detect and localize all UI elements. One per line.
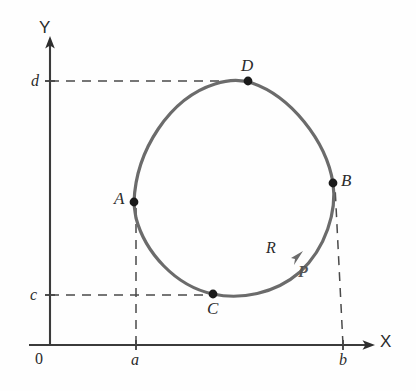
point-dot-A (130, 198, 139, 207)
diagram-graphics (0, 0, 416, 391)
point-dot-D (244, 77, 253, 86)
y-tick-label-d: d (31, 73, 39, 89)
point-label-A: A (114, 190, 124, 207)
point-dot-C (209, 290, 218, 299)
y-axis-label: Y (39, 19, 50, 36)
x-tick-label-b: b (339, 352, 347, 368)
diagram-canvas: Y X 0 a b c d A B C D R P (0, 0, 416, 391)
point-label-D: D (241, 57, 253, 74)
y-tick-label-c: c (30, 287, 37, 303)
origin-label: 0 (35, 351, 43, 367)
x-axis-label: X (380, 333, 391, 350)
region-label-R: R (266, 240, 276, 256)
point-label-C: C (207, 300, 218, 317)
vector-label-P: P (298, 264, 308, 280)
guide-line-b-to-B (335, 186, 343, 345)
x-tick-label-a: a (131, 352, 139, 368)
point-label-B: B (341, 172, 351, 189)
point-dot-B (329, 179, 338, 188)
